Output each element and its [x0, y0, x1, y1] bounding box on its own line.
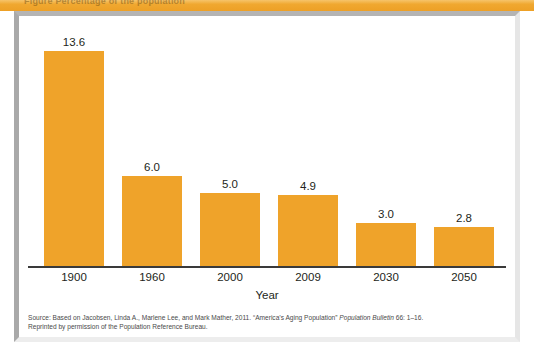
- bar-rect[interactable]: [122, 176, 182, 266]
- x-tick-label: 1900: [44, 271, 104, 283]
- x-tick-label: 1960: [122, 271, 182, 283]
- bar-group[interactable]: 3.0: [356, 24, 416, 266]
- bar-rect[interactable]: [278, 195, 338, 266]
- x-tick-label: 2050: [434, 271, 494, 283]
- bar-group[interactable]: 13.6: [44, 24, 104, 266]
- bar-rect[interactable]: [200, 193, 260, 266]
- source-note-line-2: Reprinted by permission of the Populatio…: [28, 322, 498, 331]
- bar-rect[interactable]: [434, 227, 494, 266]
- bars-row: 13.6 6.0 5.0 4.9 3.0 2.8: [44, 24, 494, 266]
- bar-value-label: 6.0: [144, 162, 160, 174]
- x-tick-label: 2000: [200, 271, 260, 283]
- bar-value-label: 3.0: [378, 209, 394, 221]
- source-note-text-a: Source: Based on Jacobsen, Linda A., Mar…: [28, 314, 339, 321]
- source-note-journal: Population Bulletin: [339, 314, 394, 321]
- bar-group[interactable]: 5.0: [200, 24, 260, 266]
- source-note-line-1: Source: Based on Jacobsen, Linda A., Mar…: [28, 313, 498, 322]
- x-tick-label: 2030: [356, 271, 416, 283]
- bar-value-label: 13.6: [63, 37, 85, 49]
- plot-area: 13.6 6.0 5.0 4.9 3.0 2.8: [44, 24, 494, 266]
- source-note-text-b: 66: 1–16.: [394, 314, 423, 321]
- bar-value-label: 5.0: [222, 179, 238, 191]
- x-tick-label: 2009: [278, 271, 338, 283]
- bar-rect[interactable]: [356, 223, 416, 266]
- x-axis-line: [28, 266, 506, 268]
- x-axis-tick-labels: 1900 1960 2000 2009 2030 2050: [44, 271, 494, 283]
- source-note: Source: Based on Jacobsen, Linda A., Mar…: [28, 313, 498, 332]
- bar-group[interactable]: 2.8: [434, 24, 494, 266]
- x-axis-title: Year: [0, 289, 534, 301]
- figure-inner: 13.6 6.0 5.0 4.9 3.0 2.8: [0, 0, 534, 352]
- bar-group[interactable]: 6.0: [122, 24, 182, 266]
- bar-value-label: 2.8: [456, 213, 472, 225]
- bar-value-label: 4.9: [300, 181, 316, 193]
- bar-rect[interactable]: [44, 51, 104, 266]
- bar-group[interactable]: 4.9: [278, 24, 338, 266]
